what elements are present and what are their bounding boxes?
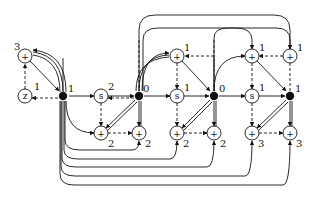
- node-symbol: +: [286, 52, 294, 62]
- flow-network-diagram: + z s + s + s + + + + + + + 3 1 1 2 0 1 …: [0, 0, 318, 199]
- node-symbol: +: [173, 52, 181, 62]
- node-label: 2: [108, 81, 114, 92]
- node-symbol: +: [21, 52, 29, 62]
- node-symbol: +: [248, 52, 256, 62]
- node-symbol: +: [286, 129, 294, 139]
- junction-node: [210, 92, 218, 100]
- node-label: 1: [295, 83, 301, 94]
- junction-node: [59, 92, 67, 100]
- junction-node: [286, 92, 294, 100]
- node-label: 2: [145, 138, 151, 149]
- node-label: 0: [143, 83, 149, 94]
- node-symbol: s: [99, 91, 104, 101]
- node-label: 1: [259, 42, 265, 53]
- node-label: 2: [183, 138, 189, 149]
- node-label: 2: [108, 138, 114, 149]
- node-label: 1: [259, 82, 265, 93]
- junction-node: [135, 92, 143, 100]
- node-symbol: s: [175, 91, 180, 101]
- node-label: 3: [296, 138, 302, 149]
- node-label: 3: [14, 41, 20, 52]
- node-symbol: +: [210, 129, 218, 139]
- node-label: 1: [184, 82, 190, 93]
- node-symbol: +: [135, 129, 143, 139]
- node-label: 3: [258, 138, 264, 149]
- node-symbol: +: [97, 129, 105, 139]
- node-label: 2: [220, 138, 226, 149]
- node-label: 1: [34, 81, 40, 92]
- node-label: 1: [184, 42, 190, 53]
- node-symbol: s: [250, 91, 255, 101]
- node-symbol: z: [23, 91, 28, 101]
- node-symbol: +: [248, 129, 256, 139]
- node-label: 0: [219, 83, 225, 94]
- node-symbol: +: [173, 129, 181, 139]
- node-label: 1: [297, 42, 303, 53]
- node-label: 1: [68, 83, 74, 94]
